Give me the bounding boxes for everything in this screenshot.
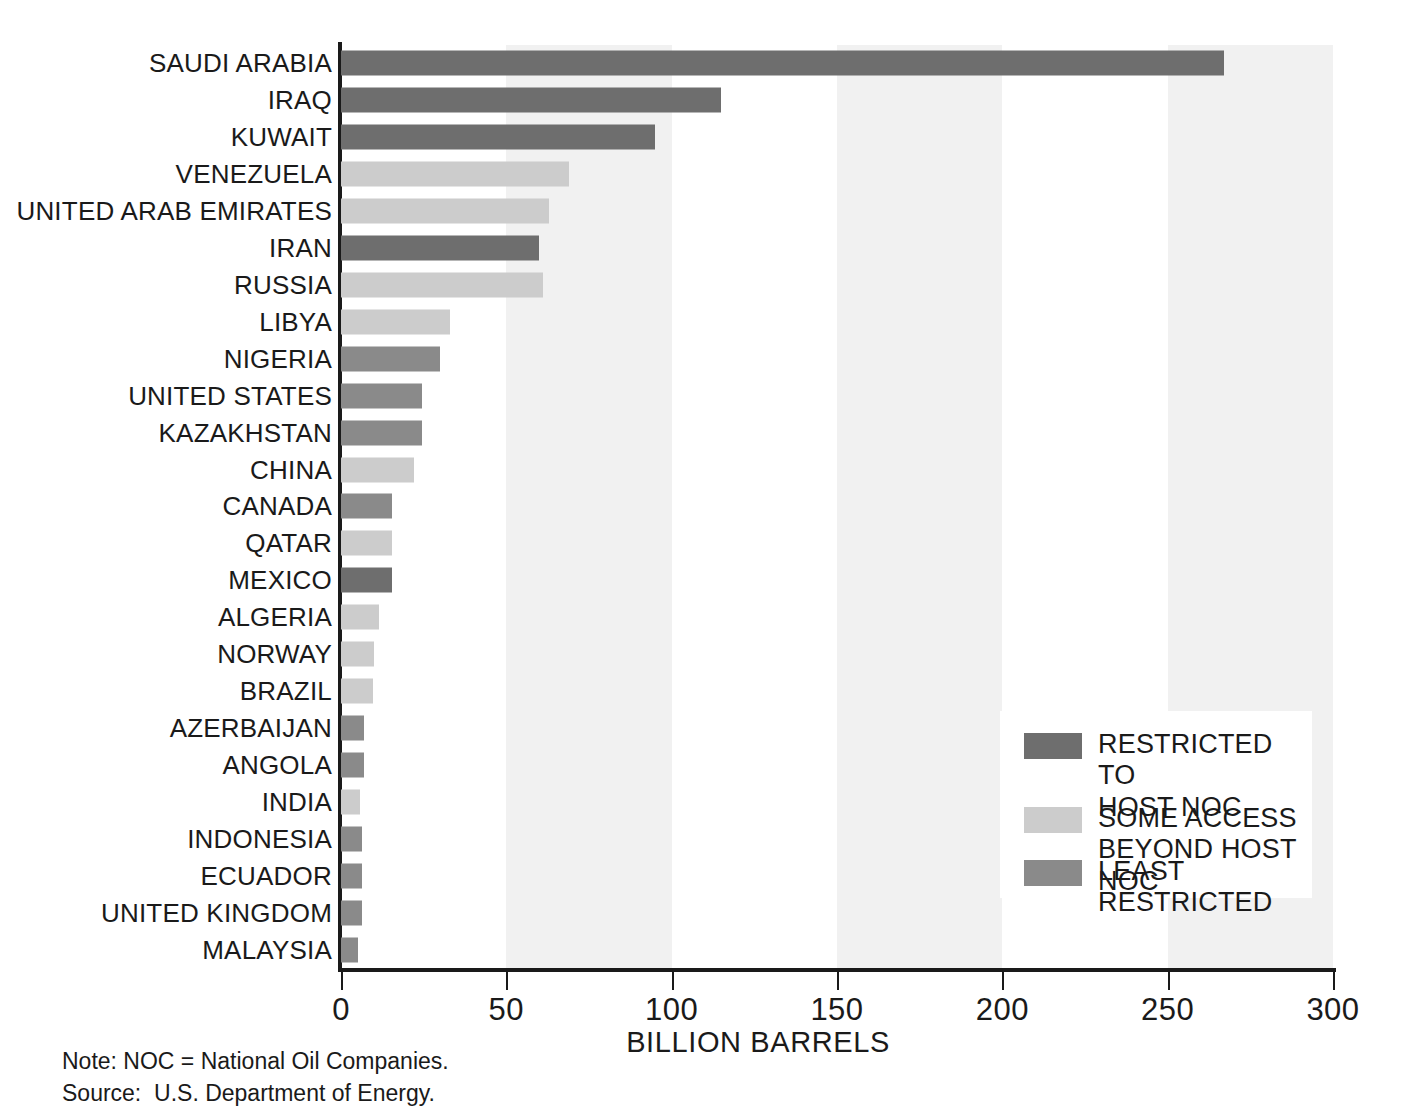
x-axis-tick: [341, 972, 343, 990]
bar: [341, 900, 362, 925]
x-axis-tick-label: 50: [489, 992, 524, 1028]
bar: [341, 420, 422, 445]
x-axis-title-text: BILLION BARRELS: [626, 1026, 890, 1058]
bar: [341, 162, 569, 187]
category-label: MEXICO: [228, 565, 332, 596]
x-axis-tick-label: 250: [1141, 992, 1194, 1028]
x-axis-tick: [506, 972, 508, 990]
bar: [341, 568, 392, 593]
bar: [341, 863, 362, 888]
category-label: LIBYA: [259, 306, 332, 337]
category-label: IRAN: [269, 233, 332, 264]
bar-row: KUWAIT: [0, 119, 1418, 156]
x-axis-tick: [1168, 972, 1170, 990]
bar-row: UNITED STATES: [0, 377, 1418, 414]
bar-row: QATAR: [0, 525, 1418, 562]
x-axis-tick-label: 200: [976, 992, 1029, 1028]
bar-row: KAZAKHSTAN: [0, 414, 1418, 451]
category-label: ANGOLA: [222, 749, 332, 780]
footnote-source: Source: U.S. Department of Energy.: [62, 1078, 449, 1108]
bar-row: BRAZIL: [0, 673, 1418, 710]
bar-row: NORWAY: [0, 636, 1418, 673]
bar-row: UNITED ARAB EMIRATES: [0, 193, 1418, 230]
bar: [341, 346, 440, 371]
x-axis-tick: [837, 972, 839, 990]
bar: [341, 383, 422, 408]
category-label: NIGERIA: [224, 343, 332, 374]
bar: [341, 272, 543, 297]
bar: [341, 457, 414, 482]
category-label: UNITED KINGDOM: [101, 897, 332, 928]
footnotes: Note: NOC = National Oil Companies. Sour…: [62, 1046, 449, 1108]
bar: [341, 51, 1224, 76]
legend-swatch: [1024, 860, 1082, 886]
x-axis-tick-label: 300: [1306, 992, 1359, 1028]
x-axis-tick: [1002, 972, 1004, 990]
category-label: NORWAY: [217, 639, 332, 670]
category-label: BRAZIL: [240, 676, 332, 707]
bar-row: ALGERIA: [0, 599, 1418, 636]
category-label: INDIA: [262, 786, 332, 817]
category-label: KUWAIT: [231, 122, 332, 153]
bar-row: MALAYSIA: [0, 931, 1418, 968]
bar-row: SAUDI ARABIA: [0, 45, 1418, 82]
category-label: ALGERIA: [218, 602, 332, 633]
bar-row: IRAN: [0, 230, 1418, 267]
bar-row: LIBYA: [0, 303, 1418, 340]
category-label: INDONESIA: [187, 823, 332, 854]
category-label: CHINA: [250, 454, 332, 485]
bar-row: VENEZUELA: [0, 156, 1418, 193]
x-axis-tick-label: 100: [645, 992, 698, 1028]
bar: [341, 531, 392, 556]
bar: [341, 125, 655, 150]
bar: [341, 605, 379, 630]
category-label: IRAQ: [268, 85, 332, 116]
category-label: SAUDI ARABIA: [149, 48, 332, 79]
bar: [341, 937, 358, 962]
category-label: CANADA: [222, 491, 332, 522]
category-label: VENEZUELA: [176, 159, 332, 190]
bar-row: IRAQ: [0, 82, 1418, 119]
bar: [341, 752, 364, 777]
category-label: AZERBAIJAN: [170, 713, 332, 744]
bar: [341, 494, 392, 519]
footnote-note: Note: NOC = National Oil Companies.: [62, 1046, 449, 1078]
bar: [341, 789, 360, 814]
bar: [341, 679, 373, 704]
legend-item: LEAST RESTRICTED: [1024, 856, 1312, 919]
bar-row: NIGERIA: [0, 340, 1418, 377]
bar: [341, 199, 549, 224]
bar-row: MEXICO: [0, 562, 1418, 599]
legend-swatch: [1024, 807, 1082, 833]
legend-label: LEAST RESTRICTED: [1098, 856, 1312, 919]
bar: [341, 236, 539, 261]
bar: [341, 826, 362, 851]
chart-legend: RESTRICTED TO HOST NOCSOME ACCESS BEYOND…: [1000, 711, 1312, 898]
category-label: UNITED STATES: [128, 380, 332, 411]
bar: [341, 642, 374, 667]
bar: [341, 716, 364, 741]
oil-reserves-bar-chart: 050100150200250300 SAUDI ARABIAIRAQKUWAI…: [0, 0, 1418, 1108]
bar-row: CANADA: [0, 488, 1418, 525]
x-axis-tick: [1333, 972, 1335, 990]
category-label: QATAR: [245, 528, 332, 559]
category-label: RUSSIA: [234, 269, 332, 300]
category-label: UNITED ARAB EMIRATES: [16, 196, 332, 227]
legend-swatch: [1024, 733, 1082, 759]
category-label: KAZAKHSTAN: [159, 417, 332, 448]
x-axis-tick-label: 0: [332, 992, 350, 1028]
bar: [341, 309, 450, 334]
bar-row: CHINA: [0, 451, 1418, 488]
category-label: MALAYSIA: [202, 934, 332, 965]
category-label: ECUADOR: [201, 860, 332, 891]
x-axis-tick-label: 150: [810, 992, 863, 1028]
bar-row: RUSSIA: [0, 267, 1418, 304]
bar: [341, 88, 721, 113]
x-axis-tick: [672, 972, 674, 990]
